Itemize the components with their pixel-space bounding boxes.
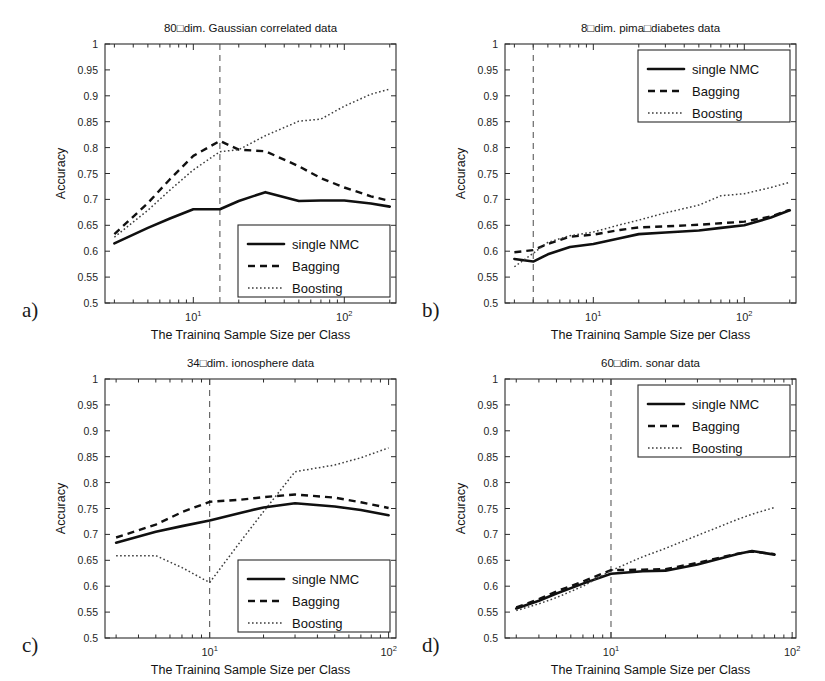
y-tick-label: 0.7 (483, 528, 498, 540)
y-tick-label: 0.65 (478, 554, 499, 566)
x-axis-label: The Training Sample Size per Class (551, 663, 750, 675)
y-axis-label: Accuracy (454, 482, 468, 534)
chart-a: 80□dim. Gaussian correlated data0.50.550… (0, 0, 412, 340)
legend-label-boosting: Boosting (692, 106, 743, 121)
y-tick-label: 0.95 (478, 64, 499, 76)
y-tick-label: 0.5 (483, 297, 498, 309)
plot-title: 34□dim. ionosphere data (187, 357, 315, 369)
x-tick-label: 102 (736, 309, 752, 323)
y-tick-label: 0.5 (83, 632, 98, 644)
panel-label-b: b) (422, 298, 440, 323)
y-tick-label: 0.75 (478, 503, 499, 515)
y-tick-label: 0.65 (78, 554, 99, 566)
y-tick-label: 0.55 (478, 606, 499, 618)
subplot-c: 34□dim. ionosphere data0.50.550.60.650.7… (0, 335, 412, 675)
plot-title: 60□dim. sonar data (601, 357, 701, 369)
x-axis-label: The Training Sample Size per Class (151, 663, 350, 675)
legend-label-boosting: Boosting (292, 281, 343, 296)
legend: single NMCBaggingBoosting (638, 50, 790, 122)
x-tick-label: 102 (784, 644, 800, 658)
legend-label-bagging: Bagging (292, 594, 340, 609)
y-tick-label: 0.8 (83, 477, 98, 489)
y-tick-label: 0.6 (483, 580, 498, 592)
y-tick-label: 0.6 (83, 580, 98, 592)
figure-root: 80□dim. Gaussian correlated data0.50.550… (0, 0, 825, 681)
legend-label-bagging: Bagging (692, 84, 740, 99)
y-tick-label: 0.8 (83, 142, 98, 154)
plot-title: 8□dim. pima□diabetes data (581, 22, 721, 34)
x-tick-label: 102 (380, 644, 396, 658)
y-tick-label: 0.8 (483, 477, 498, 489)
series-line-single-nmc (516, 551, 774, 608)
y-tick-label: 0.9 (83, 90, 98, 102)
plot-title: 80□dim. Gaussian correlated data (164, 22, 338, 34)
y-tick-label: 0.75 (478, 168, 499, 180)
y-tick-label: 0.75 (78, 168, 99, 180)
legend: single NMCBaggingBoosting (238, 560, 390, 632)
chart-b: 8□dim. pima□diabetes data0.50.550.60.650… (400, 0, 812, 340)
x-tick-label: 101 (185, 309, 201, 323)
y-tick-label: 0.9 (483, 90, 498, 102)
panel-label-d: d) (422, 633, 440, 658)
x-tick-label: 101 (585, 309, 601, 323)
subplot-b: 8□dim. pima□diabetes data0.50.550.60.650… (400, 0, 812, 340)
y-tick-label: 0.65 (78, 219, 99, 231)
y-axis-label: Accuracy (54, 482, 68, 534)
chart-c: 34□dim. ionosphere data0.50.550.60.650.7… (0, 335, 412, 675)
x-tick-label: 101 (201, 644, 217, 658)
y-tick-label: 1 (492, 373, 498, 385)
y-tick-label: 0.7 (483, 193, 498, 205)
legend: single NMCBaggingBoosting (638, 385, 790, 457)
y-tick-label: 0.95 (78, 64, 99, 76)
y-tick-label: 0.65 (478, 219, 499, 231)
y-tick-label: 1 (92, 38, 98, 50)
x-tick-label: 102 (336, 309, 352, 323)
y-tick-label: 0.9 (483, 425, 498, 437)
y-tick-label: 0.55 (78, 271, 99, 283)
y-tick-label: 0.55 (478, 271, 499, 283)
panel-label-c: c) (22, 633, 38, 658)
series-line-bagging (114, 141, 389, 234)
legend-label-boosting: Boosting (292, 616, 343, 631)
legend-label-bagging: Bagging (292, 259, 340, 274)
legend-label-single-nmc: single NMC (292, 237, 359, 252)
y-tick-label: 0.55 (78, 606, 99, 618)
subplot-d: 60□dim. sonar data0.50.550.60.650.70.750… (400, 335, 812, 675)
y-tick-label: 1 (492, 38, 498, 50)
y-tick-label: 0.85 (478, 116, 499, 128)
y-tick-label: 0.85 (78, 451, 99, 463)
series-line-boosting (114, 89, 389, 237)
legend-label-boosting: Boosting (692, 441, 743, 456)
y-tick-label: 0.6 (83, 245, 98, 257)
legend: single NMCBaggingBoosting (238, 225, 390, 297)
legend-label-single-nmc: single NMC (692, 62, 759, 77)
y-tick-label: 0.7 (83, 193, 98, 205)
y-tick-label: 0.9 (83, 425, 98, 437)
y-axis-label: Accuracy (454, 147, 468, 199)
y-tick-label: 0.75 (78, 503, 99, 515)
y-tick-label: 0.85 (78, 116, 99, 128)
y-tick-label: 0.95 (78, 399, 99, 411)
legend-label-bagging: Bagging (692, 419, 740, 434)
series-line-single-nmc (514, 210, 789, 261)
y-tick-label: 0.8 (483, 142, 498, 154)
y-tick-label: 0.7 (83, 528, 98, 540)
legend-label-single-nmc: single NMC (692, 397, 759, 412)
series-line-bagging (516, 551, 774, 607)
legend-label-single-nmc: single NMC (292, 572, 359, 587)
chart-d: 60□dim. sonar data0.50.550.60.650.70.750… (400, 335, 812, 675)
y-tick-label: 0.6 (483, 245, 498, 257)
y-tick-label: 0.5 (83, 297, 98, 309)
y-tick-label: 0.5 (483, 632, 498, 644)
y-tick-label: 0.85 (478, 451, 499, 463)
panel-label-a: a) (22, 298, 38, 323)
y-axis-label: Accuracy (54, 147, 68, 199)
subplot-a: 80□dim. Gaussian correlated data0.50.550… (0, 0, 412, 340)
y-tick-label: 0.95 (478, 399, 499, 411)
y-tick-label: 1 (92, 373, 98, 385)
series-line-single-nmc (116, 503, 388, 542)
x-tick-label: 101 (603, 644, 619, 658)
